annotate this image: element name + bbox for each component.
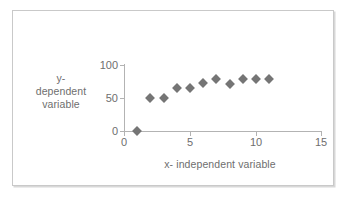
data-point [238, 74, 248, 84]
chart-figure: y- dependent variable 100 50 0 0 5 10 15… [0, 0, 350, 202]
x-axis-line [124, 131, 322, 132]
y-tick-label-100: 100 [88, 60, 118, 71]
x-tick-label-5: 5 [178, 137, 202, 148]
data-point [185, 83, 195, 93]
data-point [159, 93, 169, 103]
data-point [145, 93, 155, 103]
x-tick-label-15: 15 [309, 137, 333, 148]
x-axis-title: x- independent variable [120, 158, 320, 170]
data-point [198, 79, 208, 89]
data-point [172, 83, 182, 93]
y-axis-title-line-1: y- [18, 72, 104, 85]
y-axis-title: y- dependent variable [18, 72, 104, 111]
data-point [211, 74, 221, 84]
y-tick-label-50: 50 [88, 93, 118, 104]
x-tick-label-10: 10 [244, 137, 268, 148]
data-point [225, 79, 235, 89]
y-tick-label-0: 0 [88, 126, 118, 137]
data-point [264, 74, 274, 84]
data-point [251, 74, 261, 84]
plot-area [124, 65, 322, 131]
x-tick-label-0: 0 [112, 137, 136, 148]
